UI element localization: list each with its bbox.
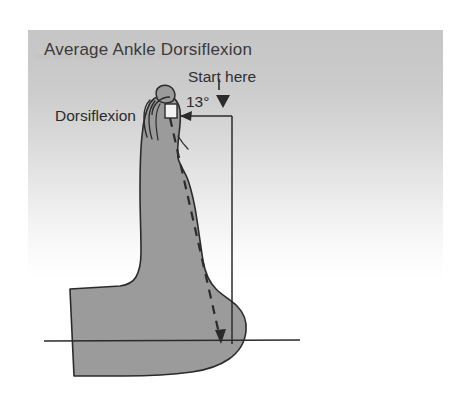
start-here-label: Start here (188, 68, 256, 86)
angle-value-label: 13° (186, 93, 209, 111)
instep-contour (178, 136, 188, 149)
ankle-joint-square-marker (165, 104, 177, 118)
dorsiflexion-label: Dorsiflexion (55, 107, 136, 125)
down-triangle-marker (216, 95, 230, 108)
ankle-dorsiflexion-illustration (0, 0, 474, 403)
horizontal-ground-line (44, 340, 300, 341)
dorsiflexion-direction-arrow-head (180, 111, 192, 121)
ankle-dorsiflexion-figure: llll lllll llllllllllllll lllllll llllll (0, 0, 474, 403)
figure-title: Average Ankle Dorsiflexion (44, 40, 252, 60)
